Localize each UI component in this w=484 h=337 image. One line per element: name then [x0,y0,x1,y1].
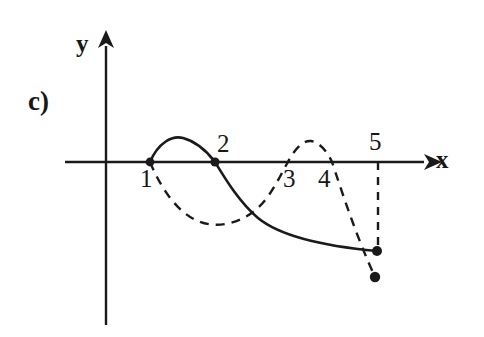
figure-canvas: c) y x 1 2 3 4 5 [0,0,484,337]
point-label-2: 2 [217,131,230,156]
point-label-5: 5 [369,129,382,154]
solid-endpoint [372,246,382,256]
part-label: c) [28,88,49,115]
x-axis-label: x [436,147,449,172]
point-label-3: 3 [283,166,296,191]
dashed-endpoint [370,272,380,282]
y-axis-label: y [76,31,89,56]
point-label-4: 4 [318,166,331,191]
y-axis-arrowhead [98,30,114,48]
plot-svg [0,0,484,337]
point-label-1: 1 [140,166,153,191]
x-axis [65,154,442,170]
y-axis [98,30,114,325]
point-at-2 [210,157,219,166]
